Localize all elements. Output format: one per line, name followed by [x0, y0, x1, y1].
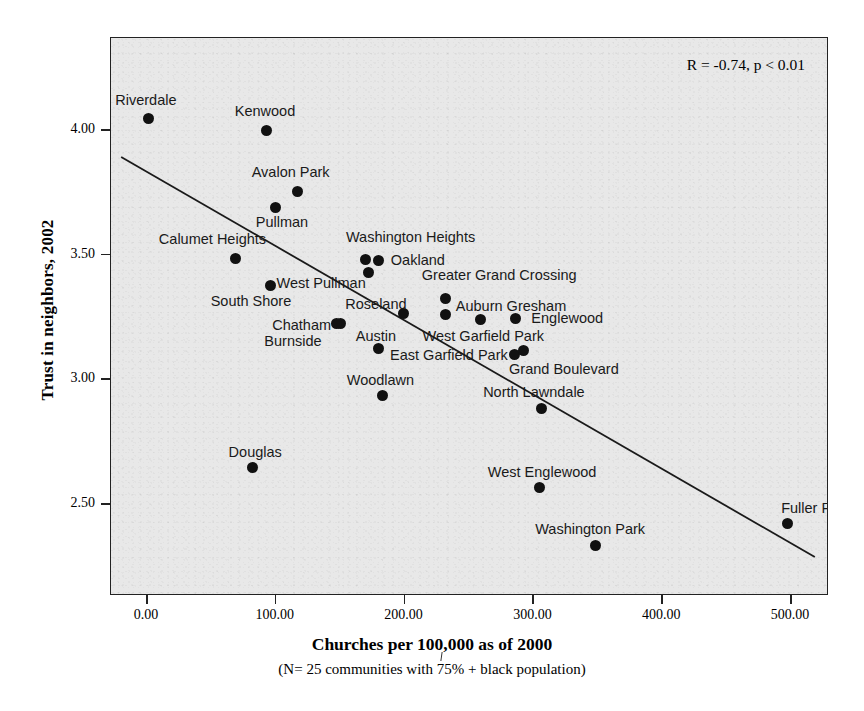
correlation-annotation: R = -0.74, p < 0.01 — [687, 56, 805, 74]
scatter-plot-figure: Trust in neighbors, 2002 RiverdaleKenwoo… — [0, 0, 864, 711]
data-point-label: North Lawndale — [483, 385, 585, 400]
data-point-label: Burnside — [264, 334, 321, 349]
x-axis-tick-label: 100.00 — [256, 607, 295, 623]
x-axis-tick — [404, 595, 406, 604]
y-axis-tick — [101, 378, 110, 380]
y-axis-tick — [101, 129, 110, 131]
data-point — [590, 540, 601, 551]
data-point — [536, 403, 547, 414]
data-point-label: Roseland — [345, 297, 406, 312]
data-point — [510, 313, 521, 324]
y-axis-tick — [101, 254, 110, 256]
data-point-label: West Pullman — [277, 276, 366, 291]
y-axis-tick-label: 3.50 — [71, 246, 96, 262]
y-axis-tick-label: 2.50 — [71, 495, 96, 511]
x-axis-tick — [532, 595, 534, 604]
y-axis-tick-label: 3.00 — [71, 370, 96, 386]
y-axis-title: Trust in neighbors, 2002 — [38, 180, 58, 440]
x-axis-tick-label: 400.00 — [642, 607, 681, 623]
data-point-label: Greater Grand Crossing — [422, 268, 577, 283]
data-point-label: Avalon Park — [252, 165, 330, 180]
data-point-label: Riverdale — [115, 93, 176, 108]
data-point-label: Washington Heights — [346, 230, 475, 245]
data-point — [475, 314, 486, 325]
data-point-label: Douglas — [229, 445, 282, 460]
y-axis-tick — [101, 503, 110, 505]
data-point-label: Oakland — [391, 253, 445, 268]
plot-area: RiverdaleKenwoodAvalon ParkPullmanWashin… — [110, 37, 828, 595]
data-point-label: Washington Park — [535, 522, 645, 537]
x-axis-tick — [790, 595, 792, 604]
data-point — [331, 318, 342, 329]
data-point-label: East Garfield Park — [390, 348, 508, 363]
data-point — [143, 113, 154, 124]
data-point-label: Calumet Heights — [159, 232, 266, 247]
data-point-label: South Shore — [211, 294, 292, 309]
regression-line — [111, 38, 827, 594]
data-point — [518, 345, 529, 356]
data-point-label: Woodlawn — [347, 373, 414, 388]
data-point-label: West Garfield Park — [423, 329, 544, 344]
data-point — [373, 343, 384, 354]
data-point — [261, 125, 272, 136]
x-axis-tick-label: 200.00 — [384, 607, 423, 623]
x-axis-tick-label: 300.00 — [513, 607, 552, 623]
data-point-label: Kenwood — [235, 104, 295, 119]
data-point — [292, 186, 303, 197]
stray-tick-mark — [440, 652, 442, 661]
data-point-label: Austin — [356, 329, 396, 344]
x-axis-tick-label: 500.00 — [771, 607, 810, 623]
x-axis-tick-label: 0.00 — [134, 607, 159, 623]
x-axis-tick — [275, 595, 277, 604]
data-point-label: Chatham — [272, 318, 331, 333]
data-point-label: Englewood — [531, 311, 603, 326]
data-point-label: Grand Boulevard — [509, 362, 619, 377]
x-axis-title: Churches per 100,000 as of 2000 — [0, 634, 864, 655]
data-point-label: Pullman — [256, 215, 308, 230]
x-axis-tick — [146, 595, 148, 604]
data-point-label: West Englewood — [488, 465, 597, 480]
y-axis-tick-label: 4.00 — [71, 121, 96, 137]
x-axis-tick — [661, 595, 663, 604]
data-point-label: Fuller Park — [781, 501, 828, 516]
x-axis-subtitle: (N= 25 communities with 75% + black popu… — [0, 661, 864, 678]
